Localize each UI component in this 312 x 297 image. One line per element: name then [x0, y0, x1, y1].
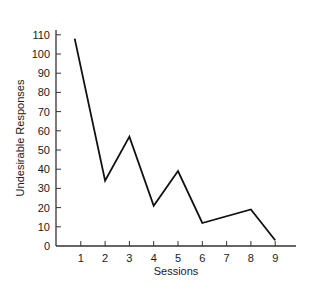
y-tick-label: 60	[38, 125, 50, 137]
y-tick-label: 40	[38, 163, 50, 175]
y-tick-label: 70	[38, 106, 50, 118]
y-tick-label: 0	[44, 240, 50, 252]
x-tick-label: 6	[199, 252, 205, 264]
line-chart: 0102030405060708090100110 123456789 Unde…	[0, 0, 312, 297]
x-tick-label: 9	[272, 252, 278, 264]
x-axis: 123456789	[56, 241, 296, 264]
y-tick-label: 30	[38, 182, 50, 194]
y-axis: 0102030405060708090100110	[32, 29, 61, 252]
y-tick-label: 50	[38, 144, 50, 156]
x-tick-label: 2	[102, 252, 108, 264]
series-line	[75, 39, 276, 241]
x-tick-label: 5	[175, 252, 181, 264]
y-tick-label: 100	[32, 48, 50, 60]
y-tick-label: 110	[32, 29, 50, 41]
x-tick-label: 3	[126, 252, 132, 264]
x-tick-label: 1	[78, 252, 84, 264]
x-axis-title: Sessions	[154, 265, 199, 277]
y-tick-label: 20	[38, 202, 50, 214]
x-tick-label: 8	[248, 252, 254, 264]
data-series	[75, 39, 276, 241]
x-tick-label: 4	[151, 252, 157, 264]
y-axis-title: Undesirable Responses	[14, 79, 26, 196]
y-tick-label: 10	[38, 221, 50, 233]
y-tick-label: 90	[38, 67, 50, 79]
x-tick-label: 7	[224, 252, 230, 264]
y-tick-label: 80	[38, 86, 50, 98]
